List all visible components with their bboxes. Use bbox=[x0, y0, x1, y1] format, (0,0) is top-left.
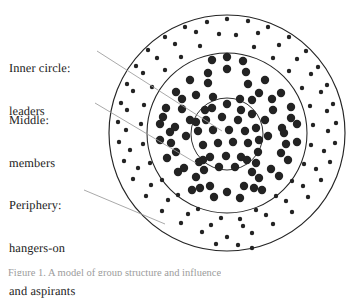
member-dot-small bbox=[308, 104, 312, 108]
member-dot-small bbox=[166, 198, 170, 202]
member-dot-small bbox=[142, 103, 146, 107]
label-middle-line2: members bbox=[9, 156, 55, 170]
member-dot-large bbox=[223, 188, 231, 196]
member-dot-large bbox=[206, 182, 214, 190]
member-dot-large bbox=[254, 148, 262, 156]
member-dot-large bbox=[223, 53, 231, 61]
member-dot-small bbox=[316, 65, 320, 69]
member-dot-small bbox=[301, 184, 305, 188]
member-dot-large bbox=[162, 104, 170, 112]
member-dot-large bbox=[159, 113, 167, 121]
member-dot-small bbox=[326, 129, 330, 133]
member-dot-large bbox=[287, 103, 295, 111]
member-dot-small bbox=[160, 209, 164, 213]
member-dot-large bbox=[201, 106, 209, 114]
member-dot-small bbox=[325, 109, 329, 113]
member-dot-large bbox=[209, 93, 217, 101]
member-dot-small bbox=[322, 149, 326, 153]
label-periphery-line1: Periphery: bbox=[9, 198, 75, 212]
member-dot-large bbox=[250, 184, 258, 192]
member-dot-large bbox=[261, 116, 269, 124]
member-dot-small bbox=[124, 128, 128, 132]
member-dot-small bbox=[149, 183, 153, 187]
member-dot-small bbox=[214, 242, 218, 246]
member-dot-large bbox=[275, 172, 283, 180]
member-dot-small bbox=[125, 82, 129, 86]
member-dot-small bbox=[246, 19, 250, 23]
member-dot-large bbox=[204, 69, 212, 77]
member-dot-large bbox=[258, 186, 266, 194]
member-dot-large bbox=[163, 154, 171, 162]
leader-periphery bbox=[84, 190, 165, 224]
member-dot-small bbox=[250, 231, 254, 235]
member-dot-large bbox=[229, 138, 237, 146]
member-dot-small bbox=[319, 178, 323, 182]
label-periphery: Periphery: hangers-on and aspirants bbox=[9, 170, 75, 302]
member-dot-large bbox=[188, 186, 196, 194]
dots-group bbox=[116, 17, 338, 250]
member-dot-small bbox=[306, 195, 310, 199]
member-dot-small bbox=[122, 159, 126, 163]
member-dot-small bbox=[163, 35, 167, 39]
member-dot-small bbox=[284, 199, 288, 203]
member-dot-large bbox=[280, 129, 288, 137]
member-dot-large bbox=[255, 89, 263, 97]
member-dot-small bbox=[333, 141, 337, 145]
member-dot-large bbox=[215, 163, 223, 171]
label-periphery-line3: and aspirants bbox=[9, 284, 75, 298]
member-dot-small bbox=[163, 68, 167, 72]
member-dot-large bbox=[182, 132, 190, 140]
member-dot-small bbox=[287, 69, 291, 73]
member-dot-large bbox=[255, 136, 263, 144]
member-dot-small bbox=[119, 101, 123, 105]
member-dot-large bbox=[277, 89, 285, 97]
member-dot-large bbox=[244, 80, 252, 88]
member-dot-large bbox=[287, 114, 295, 122]
member-dot-small bbox=[131, 177, 135, 181]
member-dot-large bbox=[264, 132, 272, 140]
member-dot-small bbox=[200, 230, 204, 234]
member-dot-large bbox=[236, 95, 244, 103]
member-dot-large bbox=[234, 116, 242, 124]
member-dot-large bbox=[178, 105, 186, 113]
member-dot-small bbox=[290, 210, 294, 214]
member-dot-small bbox=[334, 121, 338, 125]
member-dot-large bbox=[218, 113, 226, 121]
member-dot-large bbox=[178, 95, 186, 103]
member-dot-large bbox=[284, 156, 292, 164]
member-dot-small bbox=[219, 216, 223, 220]
member-dot-large bbox=[252, 124, 260, 132]
member-dot-small bbox=[146, 48, 150, 52]
member-dot-small bbox=[319, 90, 323, 94]
label-middle-line1: Middle: bbox=[9, 113, 55, 127]
member-dot-small bbox=[252, 45, 256, 49]
member-dot-large bbox=[248, 168, 256, 176]
member-dot-small bbox=[179, 55, 183, 59]
member-dot-large bbox=[252, 159, 260, 167]
member-dot-large bbox=[237, 106, 245, 114]
label-inner-line1: Inner circle: bbox=[9, 61, 71, 75]
member-dot-large bbox=[204, 79, 212, 87]
member-dot-small bbox=[250, 246, 254, 250]
member-dot-small bbox=[198, 44, 202, 48]
member-dot-large bbox=[208, 56, 216, 64]
member-dot-small bbox=[274, 194, 278, 198]
member-dot-large bbox=[240, 182, 248, 190]
member-dot-small bbox=[141, 71, 145, 75]
member-dot-small bbox=[117, 140, 121, 144]
member-dot-small bbox=[295, 57, 299, 61]
member-dot-large bbox=[236, 194, 244, 202]
member-dot-large bbox=[223, 65, 231, 73]
member-dot-small bbox=[148, 161, 152, 165]
member-dot-small bbox=[328, 160, 332, 164]
member-dot-small bbox=[136, 166, 140, 170]
member-dot-large bbox=[186, 76, 194, 84]
member-dot-large bbox=[248, 96, 256, 104]
member-dot-small bbox=[217, 32, 221, 36]
member-dot-small bbox=[139, 122, 143, 126]
member-dot-small bbox=[264, 213, 268, 217]
member-dot-large bbox=[223, 100, 231, 108]
member-dot-large bbox=[172, 88, 180, 96]
member-dot-small bbox=[287, 35, 291, 39]
